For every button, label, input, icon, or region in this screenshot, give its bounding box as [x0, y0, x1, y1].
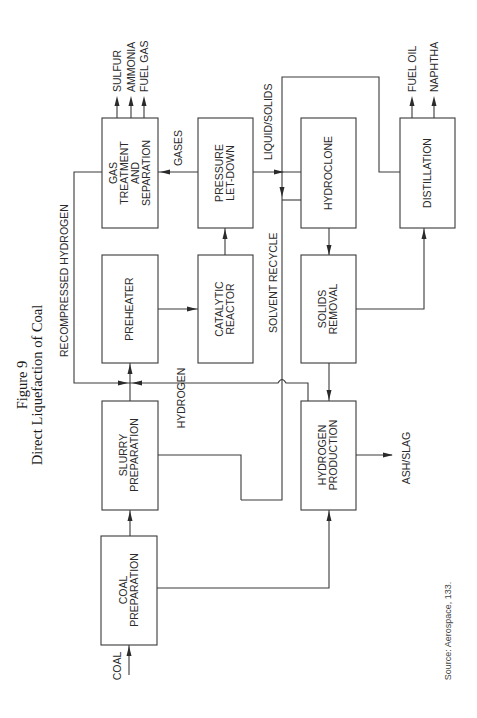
- arrow-up-icon: [422, 229, 427, 239]
- box-label: DISTILLATION: [421, 138, 433, 208]
- arrow-up-icon: [410, 96, 415, 106]
- arrow-up-icon: [142, 96, 147, 106]
- box-slurry-preparation: SLURRY PREPARATION: [102, 401, 158, 510]
- arrow-up-icon: [127, 646, 132, 656]
- arrow-up-icon: [223, 229, 228, 239]
- label-sulfur: SULFUR: [111, 50, 123, 92]
- box-gas-treatment: GAS TREATMENT AND SEPARATION: [102, 118, 158, 228]
- box-label: PREPARATION: [128, 553, 140, 627]
- label-gases: GASES: [172, 130, 184, 166]
- label-naphtha: NAPHTHA: [428, 42, 440, 92]
- arrow-down-icon: [327, 390, 332, 400]
- label-liquid-solids: LIQUID/SOLIDS: [262, 84, 274, 160]
- label-hydrogen: HYDROGEN: [175, 368, 187, 429]
- label-fuel-oil: FUEL OIL: [406, 46, 418, 92]
- arrow-down-icon: [327, 245, 332, 255]
- label-ammonia: AMMONIA: [125, 42, 137, 92]
- box-distillation: DISTILLATION: [400, 118, 455, 228]
- label-fuel-gas: FUEL GAS: [138, 40, 150, 92]
- label-coal: COAL: [111, 652, 123, 681]
- box-coal-preparation: COAL PREPARATION: [101, 536, 157, 645]
- box-hydroclone: HYDROCLONE: [301, 118, 356, 228]
- arrow-down-icon: [280, 187, 285, 197]
- recycle-to-slurry: [158, 455, 241, 500]
- arrow-left-icon: [132, 381, 142, 386]
- figure-number: Figure 9: [14, 361, 30, 410]
- box-label: HYDROCLONE: [322, 136, 334, 210]
- coal-to-hydrogen: [157, 510, 329, 588]
- figure-title: Direct Liquefaction of Coal: [29, 305, 45, 466]
- box-label: SEPARATION: [140, 140, 152, 206]
- arrow-up-icon: [327, 511, 332, 521]
- box-preheater: PREHEATER: [102, 255, 158, 363]
- source-note: Source: Aerospace, 133.: [443, 582, 453, 681]
- box-label: PREHEATER: [123, 277, 135, 341]
- arrow-right-icon: [118, 381, 128, 386]
- arrow-up-icon: [115, 96, 120, 106]
- arrow-up-icon: [432, 96, 437, 106]
- box-label: REACTOR: [224, 283, 236, 335]
- box-hydrogen-production: HYDROGEN PRODUCTION: [301, 401, 356, 510]
- hydrogen-line: [130, 380, 308, 402]
- box-label: REMOVAL: [327, 284, 339, 335]
- label-solvent-recycle: SOLVENT RECYCLE: [267, 232, 279, 333]
- arrow-left-icon: [160, 170, 170, 175]
- coal-liquefaction-diagram: Figure 9 Direct Liquefaction of Coal Sou…: [0, 0, 477, 718]
- arrow-right-icon: [187, 307, 197, 312]
- arrow-right-icon: [383, 453, 393, 458]
- arrow-up-icon: [128, 511, 133, 521]
- label-recompressed-hydrogen: RECOMPRESSED HYDROGEN: [58, 204, 70, 357]
- box-label: PRODUCTION: [327, 420, 339, 491]
- box-solids-removal: SOLIDS REMOVAL: [301, 255, 356, 363]
- solids-to-distillation: [356, 228, 424, 309]
- label-ash-slag: ASH/SLAG: [400, 432, 412, 485]
- box-pressure-letdown: PRESSURE LET-DOWN: [198, 118, 253, 228]
- arrow-up-icon: [129, 96, 134, 106]
- arrow-up-icon: [128, 364, 133, 374]
- box-label: PREPARATION: [128, 418, 140, 492]
- box-catalytic-reactor: CATALYTIC REACTOR: [198, 255, 253, 363]
- box-label: LET-DOWN: [224, 145, 236, 200]
